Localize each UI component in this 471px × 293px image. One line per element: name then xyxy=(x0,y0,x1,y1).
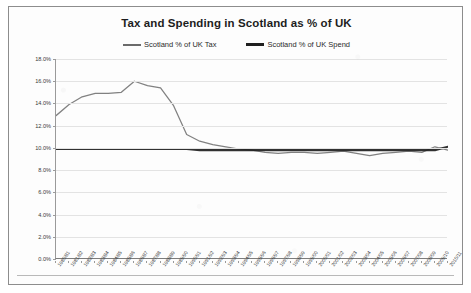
bottom-divider xyxy=(17,275,454,276)
chart-legend: Scotland % of UK Tax Scotland % of UK Sp… xyxy=(9,40,463,49)
plot-area xyxy=(55,59,447,259)
y-axis-tick-label: 10.0% xyxy=(35,145,51,151)
series-line-tax xyxy=(56,81,448,155)
chart-title: Tax and Spending in Scotland as % of UK xyxy=(9,17,463,29)
gridline xyxy=(56,81,447,82)
y-axis-tick-label: 16.0% xyxy=(35,78,51,84)
y-axis-tick-label: 6.0% xyxy=(38,189,51,195)
y-axis-tick xyxy=(53,215,56,216)
y-axis-tick xyxy=(53,103,56,104)
y-axis-tick-label: 2.0% xyxy=(38,234,51,240)
y-axis-tick xyxy=(53,237,56,238)
y-axis-tick-label: 4.0% xyxy=(38,212,51,218)
series-lines xyxy=(56,59,448,259)
y-axis-tick xyxy=(53,259,56,260)
gridline xyxy=(56,192,447,193)
y-axis-tick xyxy=(53,81,56,82)
y-axis-tick-label: 18.0% xyxy=(35,56,51,62)
y-axis-tick-label: 12.0% xyxy=(35,123,51,129)
gridline xyxy=(56,170,447,171)
y-axis-tick-label: 0.0% xyxy=(38,256,51,262)
y-axis-tick xyxy=(53,148,56,149)
gridline xyxy=(56,59,447,60)
y-axis-tick xyxy=(53,59,56,60)
legend-label-spend: Scotland % of UK Spend xyxy=(267,40,350,49)
y-axis-tick xyxy=(53,126,56,127)
y-axis-tick-label: 14.0% xyxy=(35,100,51,106)
y-axis-tick xyxy=(53,192,56,193)
gridline xyxy=(56,215,447,216)
gridline xyxy=(56,237,447,238)
legend-swatch-spend-icon xyxy=(246,43,264,46)
gridline xyxy=(56,148,447,149)
y-axis-tick xyxy=(53,170,56,171)
y-axis-labels: 0.0%2.0%4.0%6.0%8.0%10.0%12.0%14.0%16.0%… xyxy=(27,59,53,259)
gridline xyxy=(56,126,447,127)
chart-card: Tax and Spending in Scotland as % of UK … xyxy=(8,6,463,285)
legend-item-tax: Scotland % of UK Tax xyxy=(123,40,216,49)
x-axis-labels: 1980/811981/821982/831983/841984/851985/… xyxy=(55,261,447,285)
legend-swatch-tax-icon xyxy=(123,44,141,46)
gridline xyxy=(56,103,447,104)
legend-item-spend: Scotland % of UK Spend xyxy=(246,40,350,49)
legend-label-tax: Scotland % of UK Tax xyxy=(144,40,216,49)
plot-wrapper: 0.0%2.0%4.0%6.0%8.0%10.0%12.0%14.0%16.0%… xyxy=(27,59,447,259)
y-axis-tick-label: 8.0% xyxy=(38,167,51,173)
